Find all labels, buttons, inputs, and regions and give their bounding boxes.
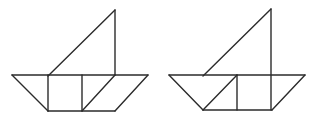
tangram-boat-left-hull-inner-diagonal bbox=[82, 75, 115, 111]
figure-canvas bbox=[0, 0, 319, 118]
tangram-boat-right-hull-inner-diagonal bbox=[203, 75, 237, 110]
tangram-boat-right-hull-right-slant bbox=[272, 75, 305, 110]
tangram-boat-right-hull-left-slant bbox=[169, 75, 203, 110]
tangram-boat-left-hull-right-slant bbox=[115, 75, 148, 111]
tangram-boat-right-sail-hypotenuse bbox=[203, 9, 271, 76]
tangram-boat-left-sail-hypotenuse bbox=[48, 10, 115, 76]
tangram-boat-right bbox=[169, 9, 305, 110]
tangram-boat-left-hull-left-slant bbox=[12, 75, 48, 111]
tangram-boats-canvas bbox=[0, 0, 319, 118]
tangram-boat-left bbox=[12, 10, 148, 111]
